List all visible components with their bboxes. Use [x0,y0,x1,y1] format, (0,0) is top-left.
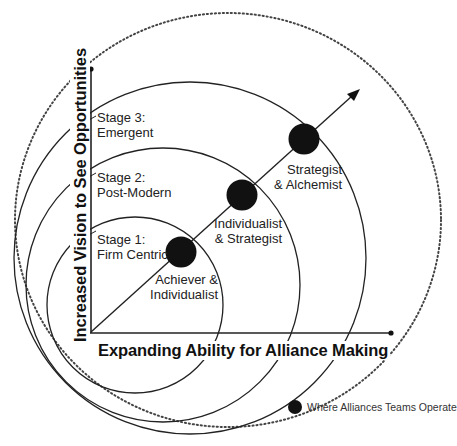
x-axis-end-dot [388,330,393,335]
legend-dot-icon [288,400,302,414]
stage2-role-line1: Individualist [210,216,282,231]
legend-label: Where Alliances Teams Operate [307,401,457,413]
stage3-name: Emergent [97,125,153,140]
stage1-title: Stage 1: [97,232,168,247]
y-axis-label: Increased Vision to See Opportunities [70,46,90,344]
stage3-label: Stage 3: Emergent [97,110,153,140]
stage1-role-line1: Achiever & [148,272,218,287]
stage1-label: Stage 1: Firm Centric [97,232,168,262]
stage3-title: Stage 3: [97,110,153,125]
stage3-role-line1: Strategist [270,162,342,177]
stage1-name: Firm Centric [97,247,168,262]
x-axis-label: Expanding Ability for Alliance Making [96,341,390,360]
stage3-operating-dot [289,124,320,155]
legend: Where Alliances Teams Operate [288,400,457,414]
stage2-role-label: Individualist & Strategist [210,216,282,246]
stage3-role-line2: & Alchemist [270,177,342,192]
stage2-title: Stage 2: [97,170,171,185]
stage2-operating-dot [227,180,258,211]
stage1-operating-dot [166,237,197,268]
stage3-role-label: Strategist & Alchemist [270,162,342,192]
stage2-name: Post-Modern [97,185,171,200]
stage1-role-line2: Individualist [148,287,218,302]
stage2-role-line2: & Strategist [210,231,282,246]
stage2-label: Stage 2: Post-Modern [97,170,171,200]
stage1-role-label: Achiever & Individualist [148,272,218,302]
